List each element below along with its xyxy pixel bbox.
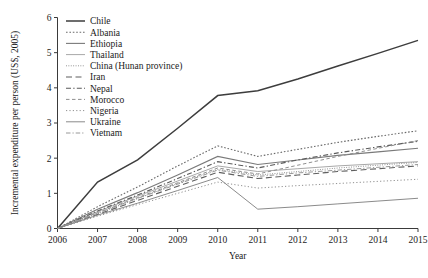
x-tick-label: 2014 bbox=[368, 235, 387, 245]
x-tick-label: 2015 bbox=[409, 235, 428, 245]
x-tick-label: 2011 bbox=[248, 235, 267, 245]
y-tick-label: 2 bbox=[47, 154, 52, 164]
y-tick-label: 3 bbox=[47, 118, 52, 128]
y-axis-title: Incremental expenditure per person (US$,… bbox=[10, 31, 21, 215]
series-line bbox=[58, 141, 419, 229]
x-axis-title: Year bbox=[229, 251, 247, 261]
legend-label: Chile bbox=[90, 16, 111, 26]
legend-label: Albania bbox=[90, 28, 121, 38]
legend-label: Vietnam bbox=[90, 128, 123, 138]
x-tick-label: 2010 bbox=[208, 235, 227, 245]
x-tick-label: 2013 bbox=[328, 235, 347, 245]
series-line bbox=[58, 162, 419, 228]
legend-label: Morocco bbox=[90, 95, 125, 105]
legend-label: Iran bbox=[90, 72, 106, 82]
legend-label: Nepal bbox=[90, 84, 113, 94]
y-tick-label: 6 bbox=[47, 13, 52, 23]
chart-legend: ChileAlbaniaEthiopiaThailandChina (Hunan… bbox=[66, 16, 182, 138]
legend-label: Ethiopia bbox=[90, 39, 123, 49]
x-tick-label: 2007 bbox=[88, 235, 107, 245]
line-chart-canvas: 0123456 20062007200820092010201120122013… bbox=[0, 0, 428, 278]
x-tick-label: 2012 bbox=[288, 235, 307, 245]
legend-label: Nigeria bbox=[90, 106, 119, 116]
x-tick-label: 2006 bbox=[48, 235, 67, 245]
chart-figure: 0123456 20062007200820092010201120122013… bbox=[0, 0, 428, 278]
y-tick-label: 1 bbox=[47, 189, 52, 199]
y-axis: 0123456 bbox=[47, 13, 58, 234]
series-line bbox=[58, 148, 419, 228]
series-line bbox=[58, 166, 419, 229]
legend-label: Thailand bbox=[90, 50, 124, 60]
y-tick-label: 5 bbox=[47, 48, 52, 58]
series-line bbox=[58, 131, 419, 229]
legend-label: Ukraine bbox=[90, 117, 121, 127]
legend-label: China (Hunan province) bbox=[90, 61, 182, 72]
x-tick-label: 2008 bbox=[128, 235, 147, 245]
series-line bbox=[58, 162, 419, 229]
y-tick-label: 0 bbox=[47, 224, 52, 234]
x-tick-label: 2009 bbox=[168, 235, 187, 245]
y-tick-label: 4 bbox=[47, 83, 52, 93]
x-axis: 2006200720082009201020112012201320142015 bbox=[48, 229, 428, 245]
